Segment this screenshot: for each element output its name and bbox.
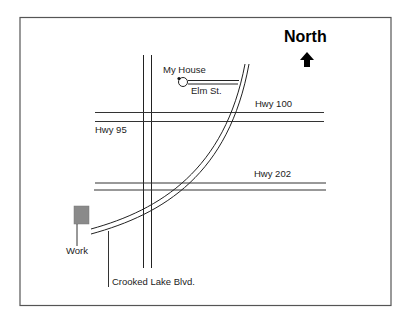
road-hwy-202 bbox=[94, 183, 326, 190]
map-border bbox=[20, 18, 391, 306]
label-hwy-95: Hwy 95 bbox=[95, 125, 127, 135]
north-label: North bbox=[284, 29, 327, 45]
road-elm-st bbox=[188, 81, 239, 85]
house-dot bbox=[177, 77, 180, 80]
label-hwy-202: Hwy 202 bbox=[254, 169, 291, 179]
label-crooked-lake-blvd: Crooked Lake Blvd. bbox=[112, 277, 195, 287]
map-canvas bbox=[0, 0, 411, 324]
north-arrow-icon bbox=[300, 52, 314, 67]
label-my-house: My House bbox=[163, 65, 206, 75]
label-elm-st: Elm St. bbox=[191, 86, 222, 96]
work-building-icon bbox=[74, 206, 89, 224]
road-hwy-100-95 bbox=[95, 113, 324, 122]
vertical-road bbox=[144, 55, 152, 268]
label-work: Work bbox=[66, 246, 88, 256]
label-hwy-100: Hwy 100 bbox=[255, 99, 292, 109]
road-crooked-lake-blvd bbox=[91, 64, 249, 234]
